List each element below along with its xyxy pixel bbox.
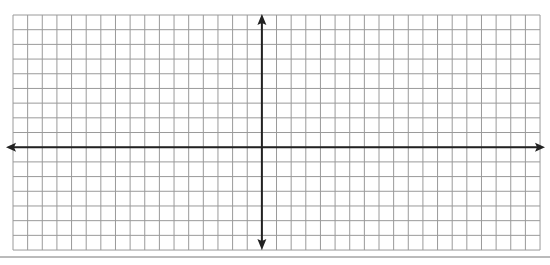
- grid-lines: [13, 15, 540, 250]
- axes: [6, 14, 545, 250]
- coordinate-plane: [0, 0, 550, 265]
